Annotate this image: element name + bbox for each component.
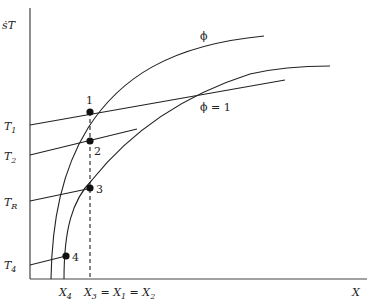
label-T2: T2: [4, 150, 16, 165]
curve-phi-1-label: ϕ = 1: [200, 101, 231, 114]
line-T2: [30, 129, 137, 155]
point-4-label: 4: [72, 251, 79, 264]
curve-phi: [51, 36, 264, 279]
y-axis-label: ṡT: [2, 19, 17, 32]
point-1: [86, 108, 93, 115]
line-T4: [30, 256, 66, 265]
tick-label-x4: X4: [58, 286, 72, 301]
point-3: [86, 184, 93, 191]
tick-label-x3-x1-x2: X3 = X1 = X2: [83, 286, 155, 301]
x-axis-label: X: [351, 286, 361, 299]
point-1-label: 1: [86, 94, 93, 107]
label-T1: T1: [4, 120, 16, 135]
curve-phi-label: ϕ: [200, 30, 208, 43]
line-TR: [30, 188, 92, 201]
label-TR: TR: [4, 196, 17, 211]
curve-phi-1: [64, 66, 330, 279]
label-T4: T4: [4, 259, 16, 274]
point-3-label: 3: [96, 183, 103, 196]
point-2-label: 2: [94, 145, 101, 158]
point-4: [62, 252, 69, 259]
diagram-canvas: ṡT X ϕ ϕ = 1 T1 T2 TR T4 1 2 3 4 X4 X3 =…: [0, 0, 379, 304]
point-2: [86, 137, 93, 144]
